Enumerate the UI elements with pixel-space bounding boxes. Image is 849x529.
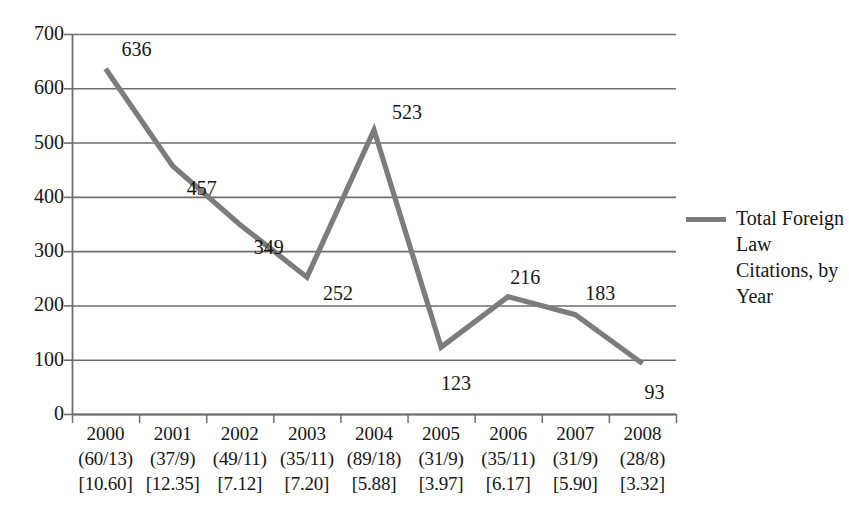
x-axis-category-2006: 2006(35/11)[6.17]: [475, 421, 542, 511]
legend-color-swatch: [686, 217, 726, 222]
x-axis-year-label: 2001: [139, 421, 206, 446]
x-axis-paren-label: (37/9): [139, 446, 206, 471]
x-axis-year-label: 2002: [206, 421, 273, 446]
x-axis-year-label: 2008: [609, 421, 676, 446]
data-point-label: 523: [392, 102, 422, 122]
x-axis-category-2004: 2004(89/18)[5.88]: [340, 421, 407, 511]
data-point-label: 636: [122, 39, 152, 59]
data-point-label: 216: [510, 267, 540, 287]
y-axis-tick-label: 600: [12, 77, 64, 97]
x-axis-paren-label: (49/11): [206, 446, 273, 471]
data-point-label: 252: [323, 283, 353, 303]
y-axis-labels: 7006005004003002001000: [8, 0, 64, 529]
data-point-label: 457: [187, 178, 217, 198]
x-axis-year-label: 2005: [408, 421, 475, 446]
y-axis-tick-label: 400: [12, 186, 64, 206]
data-point-label: 93: [644, 382, 664, 402]
x-axis-paren-label: (28/8): [609, 446, 676, 471]
x-axis-category-2005: 2005(31/9)[3.97]: [408, 421, 475, 511]
data-series-line: [106, 69, 643, 364]
x-axis-bracket-label: [6.17]: [475, 471, 542, 496]
x-axis-bracket-label: [7.12]: [206, 471, 273, 496]
x-axis-paren-label: (60/13): [72, 446, 139, 471]
y-axis-tick-label: 300: [12, 240, 64, 260]
x-axis-bracket-label: [5.88]: [340, 471, 407, 496]
x-axis-year-label: 2004: [340, 421, 407, 446]
y-axis-tick-label: 100: [12, 349, 64, 369]
x-axis-bracket-label: [3.32]: [609, 471, 676, 496]
x-axis-bracket-label: [3.97]: [408, 471, 475, 496]
y-axis-tick-label: 0: [12, 403, 64, 423]
x-axis-year-label: 2006: [475, 421, 542, 446]
x-axis-paren-label: (89/18): [340, 446, 407, 471]
x-axis-paren-label: (35/11): [273, 446, 340, 471]
x-axis-category-2008: 2008(28/8)[3.32]: [609, 421, 676, 511]
y-axis-tick-label: 700: [12, 23, 64, 43]
gridlines: [72, 35, 676, 415]
x-axis-paren-label: (35/11): [475, 446, 542, 471]
y-axis-tick-label: 500: [12, 132, 64, 152]
data-point-label: 349: [254, 237, 284, 257]
series-total-foreign-law-citations: [106, 69, 643, 364]
legend-item-label: Total Foreign Law Citations, by Year: [736, 205, 846, 309]
x-axis-year-label: 2000: [72, 421, 139, 446]
x-axis-bracket-label: [5.90]: [542, 471, 609, 496]
x-axis-bracket-label: [10.60]: [72, 471, 139, 496]
x-axis-bracket-label: [12.35]: [139, 471, 206, 496]
x-axis-category-2001: 2001(37/9)[12.35]: [139, 421, 206, 511]
y-axis-tick-label: 200: [12, 294, 64, 314]
data-point-label: 123: [441, 373, 471, 393]
line-chart: 7006005004003002001000 63645734925252312…: [0, 0, 849, 529]
data-point-label: 183: [585, 283, 615, 303]
y-axis-tick-marks: [64, 35, 72, 415]
x-axis-category-2002: 2002(49/11)[7.12]: [206, 421, 273, 511]
x-axis-bracket-label: [7.20]: [273, 471, 340, 496]
x-axis-labels: 2000(60/13)[10.60]2001(37/9)[12.35]2002(…: [72, 421, 676, 511]
x-axis-paren-label: (31/9): [542, 446, 609, 471]
x-axis-category-2000: 2000(60/13)[10.60]: [72, 421, 139, 511]
x-axis-year-label: 2003: [273, 421, 340, 446]
x-axis-paren-label: (31/9): [408, 446, 475, 471]
x-axis-year-label: 2007: [542, 421, 609, 446]
x-axis-category-2007: 2007(31/9)[5.90]: [542, 421, 609, 511]
x-axis-category-2003: 2003(35/11)[7.20]: [273, 421, 340, 511]
